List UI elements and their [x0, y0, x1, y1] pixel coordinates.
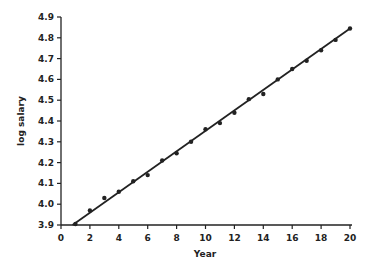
x-tick-label: 16 — [286, 233, 299, 243]
data-point — [232, 110, 236, 114]
y-tick-label: 4.5 — [38, 95, 54, 105]
x-axis: 02468101214161820 — [58, 225, 356, 243]
y-tick-label: 4.1 — [38, 178, 54, 188]
data-point — [203, 127, 207, 131]
data-point — [131, 179, 135, 183]
data-point — [333, 38, 337, 42]
data-point — [276, 77, 280, 81]
data-point — [348, 26, 352, 30]
x-tick-label: 0 — [58, 233, 64, 243]
y-tick-label: 4.9 — [38, 12, 54, 22]
y-tick-label: 4.6 — [38, 74, 54, 84]
fit-line — [73, 28, 350, 225]
scatter-chart: 3.94.04.14.24.34.44.54.64.74.84.9 024681… — [0, 0, 371, 275]
data-point — [146, 173, 150, 177]
y-axis-label: log salary — [16, 96, 26, 146]
data-point — [290, 67, 294, 71]
data-point — [174, 151, 178, 155]
x-tick-label: 12 — [228, 233, 241, 243]
x-axis-label: Year — [193, 249, 217, 259]
fit-line-layer — [73, 28, 350, 225]
data-point — [117, 190, 121, 194]
y-tick-label: 3.9 — [38, 220, 54, 230]
x-tick-label: 20 — [344, 233, 357, 243]
y-tick-label: 4.2 — [38, 158, 54, 168]
x-tick-label: 18 — [315, 233, 328, 243]
data-point — [247, 97, 251, 101]
data-point — [160, 158, 164, 162]
y-tick-label: 4.3 — [38, 137, 54, 147]
x-tick-label: 2 — [87, 233, 93, 243]
y-tick-label: 4.7 — [38, 54, 54, 64]
y-tick-label: 4.8 — [38, 33, 54, 43]
x-tick-label: 8 — [173, 233, 179, 243]
data-point — [189, 140, 193, 144]
data-point — [261, 92, 265, 96]
x-tick-label: 4 — [116, 233, 122, 243]
data-point — [102, 196, 106, 200]
data-point — [73, 222, 77, 226]
data-point — [218, 121, 222, 125]
y-axis: 3.94.04.14.24.34.44.54.64.74.84.9 — [38, 12, 61, 230]
y-tick-label: 4.4 — [38, 116, 54, 126]
x-tick-label: 14 — [257, 233, 270, 243]
x-tick-label: 6 — [145, 233, 151, 243]
data-point — [304, 58, 308, 62]
data-point — [319, 48, 323, 52]
data-point — [88, 208, 92, 212]
x-tick-label: 10 — [199, 233, 212, 243]
y-tick-label: 4.0 — [38, 199, 54, 209]
